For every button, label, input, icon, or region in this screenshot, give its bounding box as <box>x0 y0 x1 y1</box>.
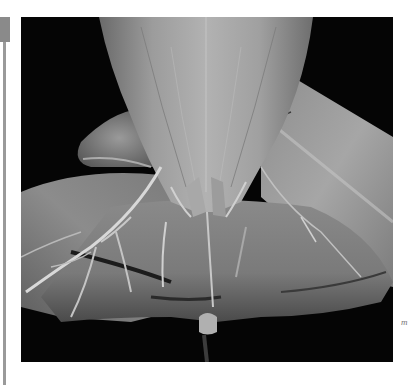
atlas-page: m <box>0 0 413 385</box>
dissection-photo-graphic <box>21 17 393 362</box>
side-section-tab <box>0 17 10 42</box>
figure-annotation-label: m <box>401 318 408 327</box>
side-rule-line <box>3 17 6 385</box>
dissection-photo <box>21 17 393 362</box>
